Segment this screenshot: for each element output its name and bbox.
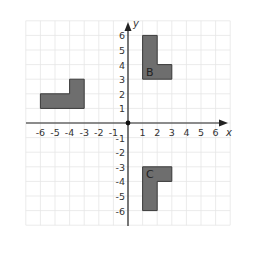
x-tick-label: -2: [94, 127, 103, 138]
x-axis-label: x: [225, 127, 232, 138]
x-tick-label: -6: [36, 127, 45, 138]
y-tick-label: 5: [119, 45, 125, 56]
shape-b-label: B: [146, 66, 154, 79]
x-tick-label: 1: [140, 127, 146, 138]
y-tick-label: -1: [116, 133, 125, 144]
x-tick-label: 5: [198, 127, 204, 138]
y-axis-label: y: [132, 18, 140, 29]
coordinate-plane: BC x y -6-5-4-3-2-1123456123456-1-2-3-4-…: [0, 0, 257, 257]
y-tick-label: -2: [116, 147, 125, 158]
y-tick-label: 6: [119, 30, 125, 41]
y-tick-label: -3: [116, 162, 125, 173]
x-tick-label: 6: [213, 127, 219, 138]
x-tick-label: 3: [169, 127, 175, 138]
y-tick-label: -6: [116, 206, 125, 217]
x-tick-label: -4: [65, 127, 74, 138]
y-tick-label: 3: [119, 74, 125, 85]
x-tick-label: 4: [183, 127, 189, 138]
y-tick-label: 4: [119, 60, 125, 71]
shape-a: [40, 79, 84, 108]
x-tick-label: 2: [154, 127, 160, 138]
y-tick-label: -5: [116, 191, 125, 202]
x-tick-label: -5: [50, 127, 59, 138]
x-tick-label: -3: [79, 127, 88, 138]
y-tick-label: 2: [119, 89, 125, 100]
y-axis-arrow-icon: [125, 22, 132, 31]
y-tick-label: -4: [116, 176, 125, 187]
shape-c-label: C: [146, 168, 154, 181]
x-axis-arrow-icon: [219, 120, 228, 127]
y-tick-label: 1: [119, 103, 125, 114]
origin-dot: [126, 121, 131, 126]
